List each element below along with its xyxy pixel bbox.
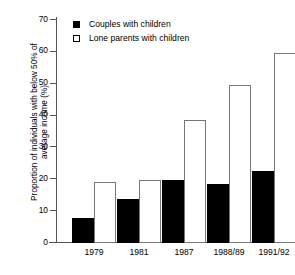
open-square-icon [73,35,80,42]
chart-legend: Couples with children Lone parents with … [73,17,243,45]
filled-square-icon [73,21,80,28]
legend-item-lone-parents: Lone parents with children [73,31,243,45]
bar-lone-parents-1979 [94,182,116,243]
bar-couples-1988-89 [207,184,229,243]
bar-lone-parents-1988-89 [229,85,251,243]
bar-chart: Proportion of individuals with below 50%… [0,0,295,275]
bar-couples-1987 [162,180,184,243]
x-axis-label-1991-92: 1991/92 [248,248,295,257]
bar-lone-parents-1987 [184,120,206,243]
bar-lone-parents-1991-92 [274,53,295,243]
legend-item-couples: Couples with children [73,17,243,31]
bar-couples-1981 [117,199,139,243]
bar-couples-1991-92 [252,171,274,243]
bar-lone-parents-1981 [139,180,161,243]
bar-couples-1979 [72,218,94,243]
legend-label-couples: Couples with children [89,20,171,29]
legend-label-lone-parents: Lone parents with children [89,34,189,43]
